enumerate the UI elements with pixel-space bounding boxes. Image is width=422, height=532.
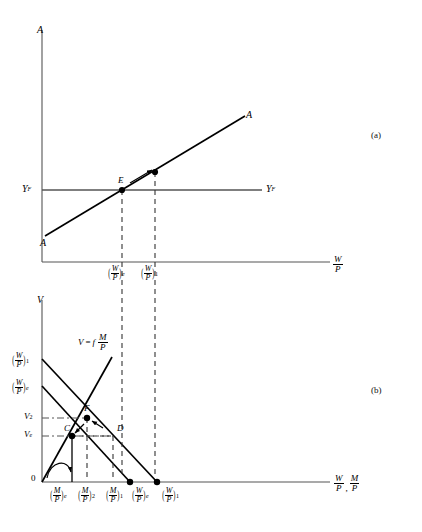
panel-b-point-label-D: D [117, 424, 124, 433]
paren-open-icon: ( [50, 489, 52, 502]
paren-close-icon: ) [24, 381, 26, 394]
paren-close-icon: ) [62, 489, 64, 502]
panel-a-curve-label-start: A [40, 238, 46, 248]
paren-close-icon: ) [144, 489, 146, 502]
panel-a-point-upper [152, 169, 158, 175]
panel-a-xtick-wp1-sub: 1 [155, 271, 158, 277]
panel-a-x-axis-num: W [333, 255, 343, 264]
paren-open-icon: ( [78, 489, 80, 502]
panel-b-velocity-curve-label: V = f M P [78, 333, 108, 352]
panel-b-ytick-v2-sub: 2 [30, 414, 33, 420]
panel-a-xtick-wpe-sub: e [122, 271, 125, 277]
velocity-label-num: M [98, 333, 108, 342]
paren-close-icon: ) [24, 354, 26, 367]
panel-b-origin-label: 0 [31, 474, 36, 483]
velocity-label-den: P [98, 342, 108, 352]
paren-close-icon: ) [153, 267, 155, 280]
paren-close-icon: ) [118, 489, 120, 502]
panel-b-line-wpe [42, 386, 130, 482]
panel-b-ytick-wp1-sub: 1 [26, 358, 29, 364]
panel-b-xtick-wpe-num: W [135, 487, 144, 495]
panel-b-xtick-mp2-den: P [81, 495, 90, 504]
panel-b-ytick-wp1-num: W [15, 352, 24, 360]
panel-a-y-axis-label: A [37, 25, 43, 35]
velocity-label-equals: = [84, 338, 93, 347]
panel-b-xtick-mp2-sub: 2 [92, 493, 95, 499]
panel-b-xtick-wp1-sub: 1 [176, 493, 179, 499]
panel-a-xtick-wp1-num: W [144, 265, 153, 273]
panel-b-point-label-F: F [84, 404, 90, 413]
paren-open-icon: ( [162, 489, 164, 502]
panel-b-tag: (b) [371, 385, 382, 395]
panel-b-x-axis-fraction-1: W P [334, 474, 344, 493]
panel-b-ytick-v2: V2 [24, 412, 33, 421]
panel-b-xtick-mp1-den: P [109, 495, 118, 504]
panel-b-xtick-wpe-sub: e [146, 493, 149, 499]
panel-b-x-axis-num-2: M [350, 474, 360, 483]
paren-open-icon: ( [106, 489, 108, 502]
panel-a-x-axis-den: P [333, 264, 343, 274]
panel-b-ytick-wpe: ( W P )e [12, 379, 29, 396]
panel-b-x-axis-num-1: W [334, 474, 344, 483]
panel-b-point-F [84, 415, 90, 421]
panel-a-tag: (a) [371, 130, 381, 140]
panel-a-x-axis-fraction: W P [333, 255, 343, 274]
panel-a-xtick-wpe: ( W P )e [108, 265, 125, 282]
panel-a-yf-axis-label-sub: F [28, 186, 32, 192]
panel-b-point-wp1-axis [154, 479, 160, 485]
panel-b-x-axis-label: W P , M P [334, 474, 359, 493]
paren-open-icon: ( [12, 354, 14, 367]
panel-b-point-label-C: C [64, 424, 70, 433]
panel-b-ytick-wpe-sub: e [26, 385, 29, 391]
panel-b-xtick-mpe-num: M [53, 487, 62, 495]
panel-a-point-E [119, 187, 125, 193]
panel-b-xtick-mp2-num: M [81, 487, 90, 495]
panel-b-ytick-ve-sub: e [30, 432, 33, 438]
panel-a-curve-label-end: A [246, 110, 252, 120]
panel-a-curve-A [45, 116, 245, 236]
panel-b-xtick-mp1: ( M P )1 [106, 487, 123, 504]
panel-b-ytick-wpe-num: W [15, 379, 24, 387]
panel-a-point-label-E: E [118, 176, 124, 185]
panel-a-yf-line-label-sub: F [272, 186, 276, 192]
panel-b-x-axis-den-2: P [350, 483, 360, 493]
velocity-label-f: f [93, 338, 96, 347]
panel-b-xtick-wpe: ( W P )e [132, 487, 149, 504]
panel-a [42, 30, 330, 262]
paren-close-icon: ) [174, 489, 176, 502]
panel-b-point-wpe-axis [127, 479, 133, 485]
panel-b-ytick-ve: Ve [24, 430, 32, 439]
panel-b-y-axis-label: V [37, 295, 43, 305]
panel-b-xtick-wp1-den: P [165, 495, 174, 504]
panel-b-ytick-wp1-den: P [15, 360, 24, 369]
panel-a-yf-axis-label: YF [22, 184, 31, 194]
velocity-label-fraction: M P [98, 333, 108, 352]
panel-a-xtick-wpe-den: P [111, 273, 120, 282]
panel-a-yf-line-label: YF [266, 184, 275, 194]
panel-b [42, 262, 330, 485]
panel-b-xtick-mp1-num: M [109, 487, 118, 495]
panel-b-xtick-mpe-sub: e [64, 493, 67, 499]
panel-b-xtick-wp1-num: W [165, 487, 174, 495]
paren-open-icon: ( [12, 381, 14, 394]
panel-a-adjustment-arrow [130, 170, 152, 183]
paren-close-icon: ) [90, 489, 92, 502]
panel-b-xtick-mp2: ( M P )2 [78, 487, 95, 504]
panel-b-line-velocity [42, 357, 112, 482]
paren-open-icon: ( [108, 267, 110, 280]
panel-b-x-axis-den-1: P [334, 483, 344, 493]
panel-b-x-axis-fraction-2: M P [350, 474, 360, 493]
paren-open-icon: ( [141, 267, 143, 280]
panel-b-ytick-wpe-den: P [15, 387, 24, 396]
figure-canvas [0, 0, 422, 532]
panel-b-ytick-wp1: ( W P )1 [12, 352, 29, 369]
paren-open-icon: ( [132, 489, 134, 502]
panel-b-xtick-wpe-den: P [135, 495, 144, 504]
panel-b-arrow-to-C [75, 424, 84, 433]
panel-b-xtick-mpe: ( M P )e [50, 487, 67, 504]
panel-b-point-C [69, 433, 75, 439]
panel-b-xtick-mpe-den: P [53, 495, 62, 504]
panel-a-x-axis-label: W P [333, 255, 343, 274]
panel-a-xtick-wp1: ( W P )1 [141, 265, 158, 282]
panel-b-xtick-mp1-sub: 1 [120, 493, 123, 499]
